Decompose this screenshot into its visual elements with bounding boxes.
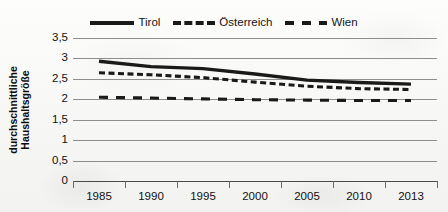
- x-axis-tick-label: 2005: [294, 191, 320, 203]
- x-axis-tick: [333, 181, 334, 188]
- legend-item-tirol: Tirol: [90, 17, 160, 29]
- x-axis-tick-label: 1990: [138, 191, 164, 203]
- legend-label-wien: Wien: [331, 17, 357, 29]
- x-axis-tick-label: 2013: [398, 191, 424, 203]
- y-axis-tick-label: 1: [38, 134, 68, 146]
- series-line-wien: [99, 97, 411, 100]
- y-axis-title-line-2: Haushaltsgröße: [19, 70, 31, 149]
- x-axis-tick: [177, 181, 178, 188]
- y-axis-title-line-1: durchschnittliche: [7, 66, 19, 154]
- y-axis-tick-label: 0: [38, 175, 68, 187]
- x-axis-tick: [73, 181, 74, 188]
- y-axis-tick-label: 2: [38, 94, 68, 106]
- solid-line-swatch-icon: [90, 21, 134, 25]
- y-axis-title: durchschnittliche Haushaltsgröße: [2, 38, 36, 181]
- x-axis-tick: [281, 181, 282, 188]
- y-axis-tick-label: 2,5: [38, 73, 68, 85]
- x-axis-tick-labels: 1985199019952000200520102013: [73, 191, 437, 207]
- x-axis-tick-label: 2000: [242, 191, 268, 203]
- plot-area: [73, 38, 437, 181]
- y-axis-tick-labels: 3,532,521,510,50: [38, 0, 68, 212]
- chart-screenshot: Tirol Österreich Wien durchschnittliche …: [0, 0, 448, 212]
- legend-item-wien: Wien: [285, 17, 357, 29]
- x-axis-line: [73, 181, 437, 182]
- x-axis-tick: [437, 181, 438, 188]
- legend-label-oesterreich: Österreich: [219, 17, 272, 29]
- legend-label-tirol: Tirol: [138, 17, 160, 29]
- x-axis-tick: [385, 181, 386, 188]
- x-axis-tick: [229, 181, 230, 188]
- x-axis-tick-label: 1995: [190, 191, 216, 203]
- series-lines: [73, 38, 437, 181]
- x-axis-tick-label: 2010: [346, 191, 372, 203]
- y-axis-tick-label: 1,5: [38, 114, 68, 126]
- x-axis-tick-label: 1985: [86, 191, 112, 203]
- x-axis-tick: [125, 181, 126, 188]
- y-axis-tick-label: 3: [38, 53, 68, 65]
- legend-item-oesterreich: Österreich: [173, 17, 272, 29]
- short-dashed-line-swatch-icon: [173, 21, 215, 25]
- y-axis-tick-label: 0,5: [38, 155, 68, 167]
- y-axis-tick-label: 3,5: [38, 32, 68, 44]
- long-dashed-line-swatch-icon: [285, 21, 327, 25]
